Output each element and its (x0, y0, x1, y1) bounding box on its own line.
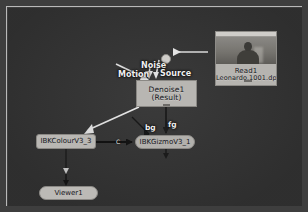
label-fg: fg (168, 120, 177, 129)
label-source: Source (160, 69, 191, 78)
read1-output-nub (244, 80, 252, 82)
node-viewer1[interactable]: Viewer1 (39, 186, 98, 200)
node-graph-frame: Read1 Leonardo.1001.dpx Denoise1 (Result… (6, 6, 302, 206)
wire-ibkgizmo-output (163, 149, 169, 159)
node-ibkgizmov3-1[interactable]: IBKGizmoV3_1 (135, 135, 195, 149)
denoise1-output-nub (163, 104, 170, 106)
node-graph-window: Read1 Leonardo.1001.dpx Denoise1 (Result… (0, 0, 308, 212)
label-c: C (116, 138, 120, 145)
label-motion: Motion (118, 70, 149, 79)
node-graph-canvas[interactable]: Read1 Leonardo.1001.dpx Denoise1 (Result… (8, 8, 302, 206)
label-bg: bg (145, 123, 156, 132)
wire-denoise1-to-ibkcolour (84, 107, 139, 134)
read1-title: Read1 (235, 67, 258, 75)
node-read1[interactable]: Read1 Leonardo.1001.dpx (215, 31, 277, 86)
read1-thumbnail (216, 37, 276, 64)
node-ibkcolourv3-3[interactable]: IBKColourV3_3 (36, 134, 96, 149)
wire-ibkcolour-to-viewer1 (63, 149, 69, 186)
thumbnail-person-body (237, 50, 259, 64)
thumbnail-person-head (244, 42, 252, 51)
denoise1-sublabel: (Result) (137, 94, 196, 102)
node-denoise1[interactable]: Denoise1 (Result) (136, 80, 197, 107)
